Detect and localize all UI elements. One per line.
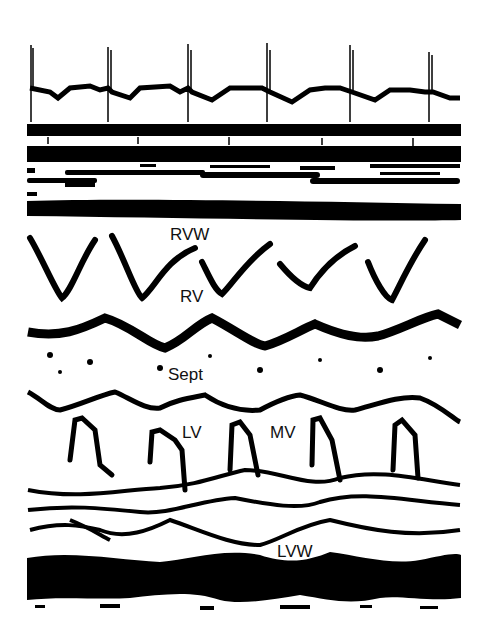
rvw-waves xyxy=(30,236,425,300)
lvw-band xyxy=(27,552,461,602)
m-mode-echocardiogram xyxy=(0,0,484,628)
label-rv: RV xyxy=(180,288,203,305)
label-sept: Sept xyxy=(168,366,203,383)
septum-band xyxy=(28,314,460,348)
label-lvw: LVW xyxy=(277,543,313,560)
label-rvw: RVW xyxy=(170,226,209,243)
mitral-valve-traces xyxy=(70,418,418,490)
ecg-trace xyxy=(30,43,460,122)
label-lv: LV xyxy=(182,424,202,441)
label-mv: MV xyxy=(270,424,296,441)
